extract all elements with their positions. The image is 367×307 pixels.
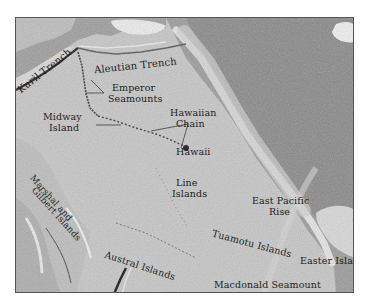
label-midway-1: Midway bbox=[43, 112, 82, 122]
label-hawaii: Hawaii bbox=[176, 147, 210, 157]
label-hawaiian-chain-2: Chain bbox=[176, 119, 205, 129]
label-east-pacific-rise-1: East Pacific bbox=[252, 196, 309, 206]
label-hawaiian-chain-1: Hawaiian bbox=[170, 108, 216, 118]
label-emperor-seamounts-1: Emperor bbox=[112, 83, 155, 93]
label-midway-2: Island bbox=[49, 123, 79, 133]
label-line-islands-2: Islands bbox=[172, 189, 207, 199]
pacific-seafloor-map: Kuril Trench Aleutian Trench Emperor Sea… bbox=[15, 17, 354, 293]
label-emperor-seamounts-2: Seamounts bbox=[108, 94, 162, 104]
label-easter-island: Easter Island bbox=[300, 256, 354, 266]
label-line-islands-1: Line bbox=[176, 178, 198, 188]
label-macdonald-seamount: Macdonald Seamount bbox=[214, 280, 321, 290]
label-east-pacific-rise-2: Rise bbox=[269, 207, 290, 217]
